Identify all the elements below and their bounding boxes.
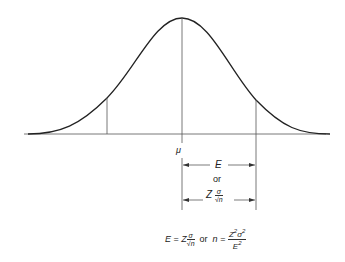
z-arrowhead-right (249, 198, 255, 202)
formula-e: E (165, 234, 171, 244)
formula-n: n (213, 234, 218, 244)
formula-sqrt-n: √n (187, 240, 195, 247)
formula-equals-1: = (174, 234, 179, 244)
mean-label: μ (176, 146, 181, 155)
formula-sigma: σ (187, 232, 195, 240)
formula: E = Z σ √n or n = Z2σ2 E2 (165, 228, 246, 250)
error-label: E (215, 160, 222, 170)
sigma-symbol: σ (215, 188, 223, 196)
e-arrowhead-right (249, 163, 255, 167)
or-label: or (213, 175, 221, 184)
sigma-over-sqrt-n: σ √n (215, 188, 223, 203)
z-symbol: Z (206, 189, 212, 200)
formula-sigma-over-sqrt-n: σ √n (187, 232, 195, 247)
formula-n-denominator: E2 (228, 240, 246, 251)
normal-curve-diagram (0, 0, 345, 262)
formula-equals-2: = (220, 234, 225, 244)
formula-or: or (200, 234, 208, 244)
formula-n-numerator: Z2σ2 (228, 228, 246, 240)
z-sigma-sqrtn-label: Z σ √n (206, 188, 223, 203)
sqrt-n-symbol: √n (215, 196, 223, 203)
formula-n-fraction: Z2σ2 E2 (228, 228, 246, 250)
e-arrowhead-left (183, 163, 189, 167)
bell-curve (28, 18, 330, 134)
z-arrowhead-left (183, 198, 189, 202)
